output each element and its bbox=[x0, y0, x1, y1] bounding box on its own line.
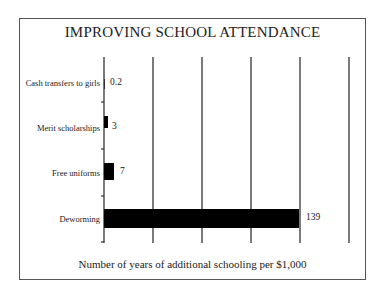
plot-area bbox=[0, 0, 385, 301]
bar-deworming bbox=[104, 209, 299, 228]
bar-merit-scholarships bbox=[104, 116, 108, 128]
value-label: 139 bbox=[306, 212, 320, 222]
category-label: Deworming bbox=[59, 214, 100, 224]
category-label: Free uniforms bbox=[52, 168, 100, 178]
category-label: Merit scholarships bbox=[37, 123, 100, 133]
bar-free-uniforms bbox=[104, 163, 114, 180]
value-label: 7 bbox=[120, 166, 125, 176]
value-label: 0.2 bbox=[110, 77, 122, 87]
value-label: 3 bbox=[112, 121, 117, 131]
bar-cash-transfers bbox=[104, 79, 105, 89]
category-label: Cash transfers to girls bbox=[26, 78, 100, 88]
x-axis-label: Number of years of additional schooling … bbox=[19, 258, 366, 270]
